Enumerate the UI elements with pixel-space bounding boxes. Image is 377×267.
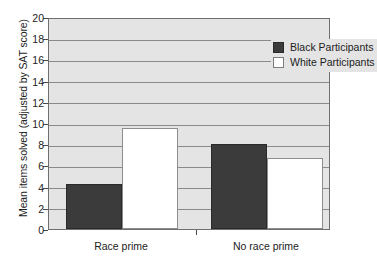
legend-swatch-black-icon bbox=[273, 42, 284, 53]
bar-black-participants-1 bbox=[66, 184, 122, 229]
y-tick-label: 10 bbox=[4, 119, 44, 129]
y-tick-label: 4 bbox=[4, 183, 44, 193]
gridline bbox=[49, 146, 329, 147]
y-tick-label: 14 bbox=[4, 77, 44, 87]
y-tick-label: 12 bbox=[4, 98, 44, 108]
gridline bbox=[49, 125, 329, 126]
y-tick-label: 0 bbox=[4, 225, 44, 235]
gridline bbox=[49, 103, 329, 104]
legend-item-white: White Participants bbox=[273, 55, 375, 70]
bar-black-participants-2 bbox=[211, 144, 267, 229]
legend-label-black: Black Participants bbox=[290, 42, 373, 53]
x-tick-label: No race prime bbox=[206, 240, 326, 252]
legend-swatch-white-icon bbox=[273, 57, 284, 68]
y-tick-label: 20 bbox=[4, 13, 44, 23]
y-tick-label: 8 bbox=[4, 140, 44, 150]
legend-label-white: White Participants bbox=[290, 57, 375, 68]
bar-white-participants-2 bbox=[267, 158, 323, 229]
gridline bbox=[49, 82, 329, 83]
plot-area: Black Participants White Participants bbox=[48, 18, 330, 230]
y-tick-label: 2 bbox=[4, 204, 44, 214]
legend-item-black: Black Participants bbox=[273, 40, 375, 55]
x-tick-label: Race prime bbox=[61, 240, 181, 252]
bar-white-participants-1 bbox=[122, 128, 178, 229]
x-tick-mark-divider bbox=[196, 230, 197, 235]
y-tick-label: 18 bbox=[4, 34, 44, 44]
y-tick-label: 6 bbox=[4, 161, 44, 171]
chart-legend: Black Participants White Participants bbox=[271, 39, 377, 72]
y-tick-label: 16 bbox=[4, 55, 44, 65]
